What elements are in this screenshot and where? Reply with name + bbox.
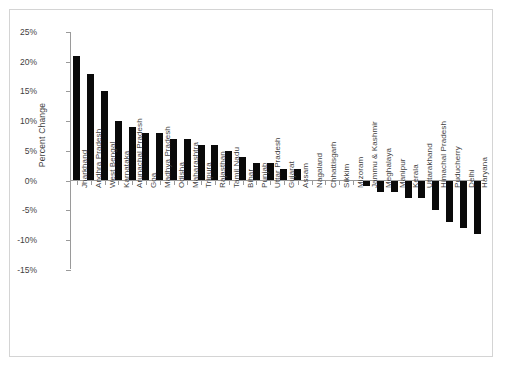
y-tick-mark [66,151,71,152]
x-tick-label: Uttar Pradesh [273,137,282,188]
x-tick-label: Bihar [246,169,255,188]
x-tick-mark [160,181,161,185]
x-tick-label: Assam [301,163,310,188]
x-tick-label: Haryana [480,157,489,188]
x-tick-mark [105,181,106,185]
x-tick-label: Chhattisgarh [329,141,338,188]
x-tick-label: Uttarakhand [425,143,434,188]
y-tick-label: -10% [0,235,37,245]
x-tick-mark [298,181,299,185]
x-tick-label: Puducherry [453,146,462,188]
y-tick-label: 10% [0,116,37,126]
x-tick-label: Manipur [398,158,407,188]
x-tick-mark [256,181,257,185]
x-tick-mark [201,181,202,185]
x-tick-label: Kerala [411,164,420,188]
x-tick-label: Odisha [177,162,186,188]
y-tick-mark [66,240,71,241]
x-tick-label: West Bengal [108,142,117,188]
x-tick-mark [312,181,313,185]
x-tick-label: Nagaland [315,153,324,188]
y-tick-label: -5% [0,205,37,215]
x-tick-label: Goa [149,173,158,188]
x-tick-label: Tripura [204,162,213,188]
x-tick-mark [270,181,271,185]
x-tick-label: Mizoram [356,157,365,188]
y-tick-mark [66,62,71,63]
y-tick-mark [66,121,71,122]
x-tick-label: Sikkim [342,164,351,188]
x-tick-mark [77,181,78,185]
x-tick-mark [284,181,285,185]
x-tick-mark [339,181,340,185]
y-tick-mark [66,210,71,211]
x-tick-label: Meghalaya [384,148,393,188]
y-tick-label: 0% [0,176,37,186]
y-tick-label: 20% [0,57,37,67]
x-tick-mark [91,181,92,185]
x-tick-label: Karnataka [122,151,131,188]
x-tick-label: Himachal Pradesh [439,121,448,188]
x-tick-label: Delhi [467,169,476,188]
x-tick-label: Maharashtra [191,142,200,188]
x-tick-label: Arunachal Pradesh [135,118,144,188]
x-tick-label: Punjab [260,162,269,188]
x-tick-mark [187,181,188,185]
x-tick-label: Jharkhand [80,150,89,188]
y-tick-label: 15% [0,86,37,96]
bar [474,181,481,234]
x-tick-label: Madhya Pradesh [163,126,172,188]
x-tick-mark [243,181,244,185]
y-tick-label: -15% [0,265,37,275]
x-tick-label: Gujarat [287,161,296,188]
x-tick-label: Tamil Nadu [232,147,241,188]
x-tick-mark [325,181,326,185]
y-tick-label: 5% [0,146,37,156]
y-tick-mark [66,32,71,33]
chart-frame: Percent Change 25%20%15%10%5%0%-5%-10%-1… [9,9,493,357]
x-tick-label: Andhra Pradesh [94,129,103,188]
x-tick-label: Jammu & Kashmir [370,121,379,188]
x-tick-mark [353,181,354,185]
y-tick-mark [66,270,71,271]
y-tick-label: 25% [0,27,37,37]
x-tick-mark [215,181,216,185]
x-tick-label: Rajasthan [218,151,227,188]
x-tick-mark [132,181,133,185]
x-tick-mark [146,181,147,185]
y-tick-mark [66,181,71,182]
y-axis-title: Percent Change [37,70,51,200]
x-tick-mark [174,181,175,185]
x-tick-mark [229,181,230,185]
y-tick-mark [66,91,71,92]
x-tick-mark [118,181,119,185]
